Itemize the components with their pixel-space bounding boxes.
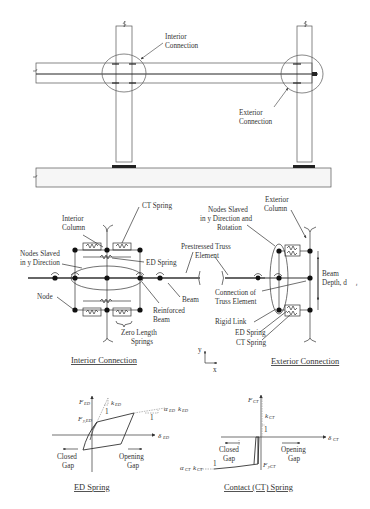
ed-slope-one-b: 1 [150, 414, 154, 422]
label-exterior-connection: Exterior [239, 109, 263, 117]
label-zero-length-springs-2: Springs [131, 338, 153, 346]
ed-stiffness-sub: ED [114, 402, 122, 407]
label-nodes-slaved-rot-2: in y Direction and [200, 215, 253, 223]
ct-stiffness-sub: CT [269, 415, 275, 420]
ct-closed-gap-2: Gap [223, 455, 235, 463]
ed-force-sub: ED [83, 401, 91, 406]
exterior-connection-model [180, 210, 318, 342]
label-nodes-slaved-rot: Nodes Slaved [208, 206, 248, 214]
label-exterior-column-2: Column [264, 205, 288, 213]
label-ed-spring-ext: ED Spring [235, 329, 266, 337]
ed-post-yield-alpha-sub: ED [168, 408, 176, 413]
caption-ed-spring: ED Spring [74, 483, 110, 492]
axis-x-label: x [213, 366, 217, 374]
label-interior-column: Interior [62, 215, 84, 223]
label-nodes-slaved-2: in y Direction [20, 259, 60, 267]
ct-slope-one-b: 1 [213, 460, 217, 468]
ct-post-yield-alpha-sub: CT [185, 467, 191, 472]
ed-post-yield-alpha: α [164, 405, 168, 413]
interior-column [116, 26, 132, 162]
label-prestressed-truss-2: Element [195, 252, 219, 260]
label-interior-connection: Interior [165, 33, 187, 41]
ct-post-yield-k-sub: CT [197, 467, 203, 472]
label-reinforced-beam: Reinforced [153, 307, 185, 315]
ed-post-yield-k-sub: ED [181, 408, 189, 413]
ct-opening-gap: Opening [281, 446, 306, 454]
label-connection-truss-2: Truss Element [215, 298, 256, 306]
diagram-canvas: Interior Connection Exterior Connection [0, 0, 370, 509]
label-beam-depth-2: Depth, d [322, 279, 347, 287]
label-beam-depth-sub: t [356, 282, 358, 287]
ct-closed-gap: Closed [219, 446, 239, 454]
break-mark [33, 69, 37, 71]
ct-post-yield-alpha: α [180, 464, 184, 472]
ct-disp-sub: CT [333, 437, 339, 442]
ed-disp-sub: ED [162, 435, 170, 440]
ct-yield-sub: yCT [267, 464, 276, 469]
label-connection-truss: Connection of [215, 289, 257, 297]
exterior-nodes [256, 248, 313, 312]
label-ct-spring: CT Spring [142, 202, 172, 210]
label-beam-depth: Beam [322, 270, 339, 278]
axis-y-label: y [198, 346, 202, 354]
label-ct-spring-ext: CT Spring [236, 339, 266, 347]
label-node: Node [37, 293, 53, 301]
label-prestressed-truss: Prestressed Truss [181, 243, 231, 251]
anchor [312, 72, 317, 76]
ct-force-sub: CT [253, 399, 259, 404]
label-nodes-slaved: Nodes Slaved [20, 250, 60, 258]
label-ed-spring: ED Spring [146, 259, 177, 267]
label-beam: Beam [182, 296, 199, 304]
exterior-column [297, 26, 312, 162]
ct-slope-one-a: 1 [264, 426, 268, 434]
xy-axes-indicator [205, 351, 217, 363]
label-exterior-connection-2: Connection [239, 118, 273, 126]
interior-connection-circle [102, 54, 146, 92]
label-reinforced-beam-2: Beam [153, 316, 170, 324]
caption-ct-spring: Contact (CT) Spring [224, 483, 294, 492]
ed-closed-gap-2: Gap [62, 462, 74, 470]
label-zero-length-springs: Zero Length [121, 329, 157, 337]
ct-opening-gap-2: Gap [288, 455, 300, 463]
ed-disp-label: δ [158, 432, 162, 440]
label-interior-connection-2: Connection [165, 42, 199, 50]
caption-exterior-connection: Exterior Connection [271, 357, 340, 366]
caption-interior-connection: Interior Connection [71, 356, 138, 365]
label-exterior-column: Exterior [265, 196, 289, 204]
ed-yield-sub: y,ED [82, 418, 93, 424]
ed-opening-gap: Opening [119, 453, 144, 461]
label-nodes-slaved-rot-3: Rotation [217, 224, 242, 232]
ed-slope-one-a: 1 [105, 408, 109, 416]
ed-closed-gap: Closed [57, 453, 77, 461]
ct-spring-plot [200, 395, 326, 470]
foundation [36, 168, 331, 187]
label-interior-column-2: Column [62, 224, 86, 232]
label-rigid-link: Rigid Link [215, 318, 247, 326]
beam [36, 63, 312, 83]
ct-disp-label: δ [328, 434, 332, 442]
ed-opening-gap-2: Gap [127, 462, 139, 470]
